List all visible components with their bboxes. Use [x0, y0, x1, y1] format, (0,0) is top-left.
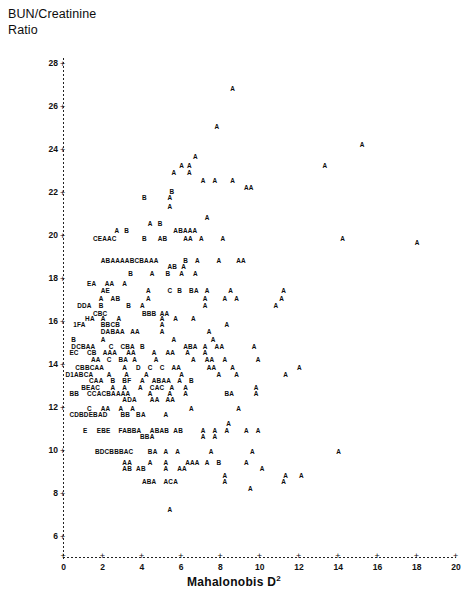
y-tick-mark: + — [60, 275, 65, 284]
data-point-glyph: ADA — [122, 396, 136, 403]
data-point-glyph: B — [217, 459, 222, 466]
data-point-glyph: B — [177, 287, 182, 294]
data-point-glyph: A — [248, 485, 253, 492]
x-tick-mark: + — [139, 552, 144, 561]
y-axis-tick: 20+ — [60, 236, 68, 237]
data-point-glyph: B — [189, 377, 194, 384]
data-point-glyph: B — [142, 235, 147, 242]
data-point-glyph: AA — [166, 396, 176, 403]
data-point-glyph: B — [166, 270, 171, 277]
x-axis-title: Mahalonobis D2 — [0, 574, 468, 589]
y-axis-tick: 28+ — [60, 64, 68, 65]
y-tick-label: 14 — [49, 359, 58, 370]
data-point-glyph: A — [191, 356, 196, 363]
x-tick-mark: + — [296, 552, 301, 561]
data-point-glyph: AA — [244, 184, 254, 191]
data-point-glyph: AB — [136, 465, 146, 472]
data-point-glyph: A — [171, 169, 176, 176]
data-point-glyph: A — [230, 85, 235, 92]
data-point-glyph: AAA — [185, 459, 199, 466]
data-point-glyph: EA — [87, 280, 96, 287]
data-point-glyph: A — [256, 356, 261, 363]
y-axis-tick: 8+ — [60, 494, 68, 495]
data-point-glyph: A — [279, 295, 284, 302]
data-point-glyph: A — [215, 123, 220, 130]
y-axis-tick: 24+ — [60, 150, 68, 151]
data-point-glyph: CEAAC — [93, 235, 117, 242]
data-point-glyph: A — [217, 371, 222, 378]
data-point-glyph: A — [201, 177, 206, 184]
data-point-glyph: A — [179, 270, 184, 277]
data-point-glyph: A — [273, 302, 278, 309]
data-point-glyph: A — [222, 295, 227, 302]
y-tick-label: 26 — [49, 101, 58, 112]
data-point-glyph: A — [148, 459, 153, 466]
data-point-glyph: ACA — [164, 478, 178, 485]
data-point-glyph: B — [128, 270, 133, 277]
x-tick-mark: + — [100, 552, 105, 561]
data-point-glyph: A — [187, 169, 192, 176]
y-tick-label: 18 — [49, 273, 58, 284]
data-point-glyph: A — [234, 371, 239, 378]
data-point-glyph: A — [205, 459, 210, 466]
y-tick-mark: + — [60, 103, 65, 112]
data-point-glyph: A — [150, 270, 155, 277]
page-title: BUN/Creatinine Ratio — [8, 6, 96, 38]
data-point-glyph: A — [132, 356, 137, 363]
data-point-glyph: A — [167, 203, 172, 210]
x-tick-label: 14 — [324, 562, 352, 573]
data-point-glyph: DDA — [77, 302, 91, 309]
data-point-glyph: A — [201, 433, 206, 440]
x-tick-label: 2 — [89, 562, 117, 573]
data-point-glyph: BB — [120, 411, 130, 418]
data-point-glyph: A — [209, 448, 214, 455]
x-tick-mark: + — [178, 552, 183, 561]
data-point-glyph: A — [281, 287, 286, 294]
data-point-glyph: 1FA — [73, 321, 85, 328]
data-point-glyph: A — [179, 162, 184, 169]
y-tick-mark: + — [60, 146, 65, 155]
y-tick-mark: + — [60, 318, 65, 327]
data-point-glyph: A — [148, 220, 153, 227]
data-point-glyph: FABBA — [118, 427, 141, 434]
data-point-glyph: A — [340, 235, 345, 242]
data-point-glyph: A — [205, 287, 210, 294]
scatter-plot: BUN/Creatinine Ratio 28+26+24+22+20+18+1… — [0, 0, 468, 598]
x-axis-title-text: Mahalonobis D — [187, 575, 276, 589]
data-point-glyph: A — [228, 287, 233, 294]
data-point-glyph: A — [140, 302, 145, 309]
data-point-glyph: A — [115, 227, 120, 234]
data-point-glyph: AA — [205, 356, 215, 363]
data-point-glyph: C — [107, 356, 112, 363]
data-point-glyph: BA — [118, 356, 128, 363]
data-point-glyph: A — [297, 364, 302, 371]
data-point-glyph: A — [193, 153, 198, 160]
data-point-glyph: A — [360, 141, 365, 148]
y-tick-label: 10 — [49, 445, 58, 456]
x-tick-label: 0 — [50, 562, 78, 573]
data-point-glyph: AA — [150, 396, 160, 403]
data-point-glyph: A — [220, 235, 225, 242]
data-point-glyph: BA — [189, 287, 199, 294]
data-point-glyph: ABAAAABCBAAA — [101, 257, 159, 264]
x-tick-mark: + — [414, 552, 419, 561]
data-point-glyph: B — [99, 302, 104, 309]
data-point-glyph: A — [281, 478, 286, 485]
data-point-glyph: B — [158, 220, 163, 227]
y-axis-line — [63, 58, 64, 559]
y-tick-label: 20 — [49, 230, 58, 241]
data-point-glyph: C — [167, 287, 172, 294]
data-point-glyph: A — [101, 336, 106, 343]
data-point-glyph: A — [122, 280, 127, 287]
data-point-glyph: AA — [215, 343, 225, 350]
x-tick-label: 8 — [206, 562, 234, 573]
data-point-glyph: AA — [207, 364, 217, 371]
data-point-glyph: EBE — [97, 427, 111, 434]
data-point-glyph: A — [130, 405, 135, 412]
data-point-glyph: B — [124, 227, 129, 234]
data-point-glyph: A — [224, 427, 229, 434]
y-tick-mark: + — [60, 60, 65, 69]
data-point-glyph: AA — [183, 235, 193, 242]
data-point-glyph: ABAAA — [173, 227, 197, 234]
data-point-glyph: A — [230, 177, 235, 184]
